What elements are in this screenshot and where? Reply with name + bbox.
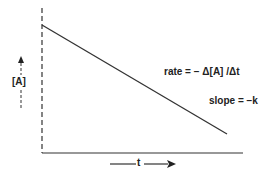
y-axis-label: [A] [12, 76, 26, 87]
right-arrow-icon [167, 160, 176, 168]
x-axis-label: t [137, 157, 140, 168]
rate-equation: rate = − Δ[A] /Δt [164, 66, 240, 77]
up-arrow-icon [18, 56, 24, 63]
diagram-canvas [0, 0, 266, 178]
concentration-line [42, 25, 227, 134]
slope-label: slope = −k [209, 95, 258, 106]
